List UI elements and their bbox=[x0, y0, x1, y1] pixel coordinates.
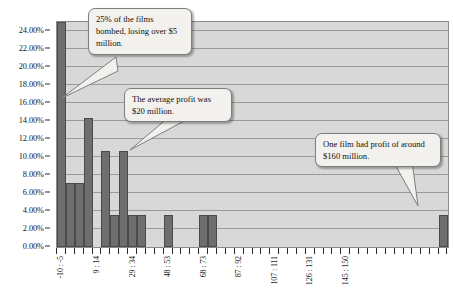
bar bbox=[164, 215, 173, 247]
x-axis-tick-mark bbox=[296, 248, 297, 254]
x-axis-tick-mark bbox=[243, 248, 244, 254]
bar bbox=[199, 215, 208, 247]
y-axis-tick-mark bbox=[45, 102, 50, 103]
y-axis-tick-mark bbox=[45, 174, 50, 175]
y-axis-tick-label: 8.00% bbox=[23, 170, 44, 179]
x-axis-tick-mark bbox=[411, 248, 412, 254]
x-axis-tick-mark bbox=[385, 248, 386, 254]
x-axis-tick-mark bbox=[252, 248, 253, 254]
x-axis-tick-mark bbox=[340, 248, 341, 254]
x-axis-tick-label: 126 : 131 bbox=[305, 256, 314, 285]
gridline bbox=[57, 210, 448, 211]
x-axis-tick-label: -10 : -5 bbox=[56, 256, 65, 279]
x-axis-tick-mark bbox=[207, 248, 208, 254]
x-axis-tick-mark bbox=[83, 248, 84, 254]
x-axis-labels: -10 : -59 : 1429 : 3448 : 5368 : 7387 : … bbox=[56, 256, 449, 307]
y-axis-tick-mark bbox=[45, 210, 50, 211]
x-axis-tick-mark bbox=[420, 248, 421, 254]
x-axis-tick-mark bbox=[314, 248, 315, 254]
x-axis-tick-mark bbox=[163, 248, 164, 254]
y-axis-tick-mark bbox=[45, 84, 50, 85]
x-axis-tick-mark bbox=[172, 248, 173, 254]
bar bbox=[119, 151, 128, 247]
x-axis-tick-mark bbox=[225, 248, 226, 254]
y-axis-tick-label: 12.00% bbox=[19, 134, 44, 143]
bar bbox=[128, 215, 137, 247]
callout-1-tail bbox=[60, 55, 120, 100]
x-axis-tick-mark bbox=[56, 248, 57, 254]
y-axis-tick-label: 10.00% bbox=[19, 152, 44, 161]
y-axis-tick-label: 6.00% bbox=[23, 188, 44, 197]
x-axis-tick-label: 145 : 150 bbox=[341, 256, 350, 285]
x-axis-ticks bbox=[56, 248, 449, 255]
x-axis-tick-mark bbox=[145, 248, 146, 254]
bar bbox=[84, 118, 93, 247]
bar bbox=[66, 183, 75, 247]
y-axis-tick-mark bbox=[45, 30, 50, 31]
x-axis-tick-mark bbox=[323, 248, 324, 254]
x-axis-tick-mark bbox=[65, 248, 66, 254]
x-axis-tick-label: 9 : 14 bbox=[92, 256, 101, 273]
bar bbox=[75, 183, 84, 247]
callout-annotation-3: One film had profit of around $160 milli… bbox=[315, 133, 441, 167]
y-axis-tick-label: 18.00% bbox=[19, 80, 44, 89]
x-axis-tick-mark bbox=[394, 248, 395, 254]
y-axis-tick-mark bbox=[45, 120, 50, 121]
x-axis-tick-label: 29 : 34 bbox=[128, 256, 137, 277]
bar bbox=[439, 215, 448, 247]
y-axis-tick-label: 0.00% bbox=[23, 242, 44, 251]
x-axis-tick-mark bbox=[429, 248, 430, 254]
x-axis-tick-mark bbox=[136, 248, 137, 254]
y-axis-tick-mark bbox=[45, 156, 50, 157]
x-axis-tick-mark bbox=[109, 248, 110, 254]
x-axis-tick-mark bbox=[358, 248, 359, 254]
y-axis-tick-mark bbox=[45, 192, 50, 193]
x-axis-tick-mark bbox=[446, 248, 447, 254]
bar bbox=[101, 151, 110, 247]
x-axis-tick-label: 107 : 111 bbox=[270, 256, 279, 285]
x-axis-tick-mark bbox=[349, 248, 350, 254]
x-axis-tick-mark bbox=[92, 248, 93, 254]
x-axis-tick-mark bbox=[180, 248, 181, 254]
x-axis-tick-label: 87 : 92 bbox=[234, 256, 243, 277]
x-axis-tick-mark bbox=[189, 248, 190, 254]
x-axis-tick-mark bbox=[74, 248, 75, 254]
x-axis-tick-mark bbox=[367, 248, 368, 254]
callout-1-text: 25% of the films bombed, losing over $5 … bbox=[96, 14, 177, 48]
y-axis: 0.00%2.00%4.00%6.00%8.00%10.00%12.00%14.… bbox=[0, 21, 50, 248]
y-axis-tick-label: 16.00% bbox=[19, 98, 44, 107]
y-axis-tick-label: 20.00% bbox=[19, 62, 44, 71]
y-axis-tick-mark bbox=[45, 48, 50, 49]
y-axis-tick-label: 4.00% bbox=[23, 206, 44, 215]
callout-2-text: The average profit was $20 million. bbox=[132, 94, 211, 116]
gridline bbox=[57, 120, 448, 121]
x-axis-tick-mark bbox=[278, 248, 279, 254]
x-axis-tick-mark bbox=[216, 248, 217, 254]
y-axis-tick-mark bbox=[45, 228, 50, 229]
x-axis-tick-mark bbox=[234, 248, 235, 254]
y-axis-tick-mark bbox=[45, 138, 50, 139]
callout-annotation-2: The average profit was $20 million. bbox=[124, 88, 232, 122]
bar bbox=[208, 215, 217, 247]
x-axis-tick-label: 48 : 53 bbox=[163, 256, 172, 277]
x-axis-tick-mark bbox=[438, 248, 439, 254]
x-axis-tick-mark bbox=[305, 248, 306, 254]
x-axis-tick-mark bbox=[198, 248, 199, 254]
x-axis-tick-mark bbox=[127, 248, 128, 254]
x-axis-tick-mark bbox=[376, 248, 377, 254]
x-axis-tick-mark bbox=[287, 248, 288, 254]
x-axis-tick-mark bbox=[100, 248, 101, 254]
x-axis-tick-mark bbox=[403, 248, 404, 254]
bar bbox=[110, 215, 119, 247]
y-axis-tick-mark bbox=[45, 246, 50, 247]
y-axis-tick-mark bbox=[45, 66, 50, 67]
x-axis-tick-mark bbox=[118, 248, 119, 254]
y-axis-tick-label: 22.00% bbox=[19, 44, 44, 53]
gridline bbox=[57, 102, 448, 103]
x-axis-tick-mark bbox=[331, 248, 332, 254]
histogram-chart: 0.00%2.00%4.00%6.00%8.00%10.00%12.00%14.… bbox=[0, 0, 453, 307]
callout-3-text: One film had profit of around $160 milli… bbox=[323, 139, 425, 161]
bar bbox=[137, 215, 146, 247]
callout-annotation-1: 25% of the films bombed, losing over $5 … bbox=[88, 8, 192, 55]
x-axis-tick-label: 68 : 73 bbox=[199, 256, 208, 277]
